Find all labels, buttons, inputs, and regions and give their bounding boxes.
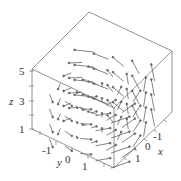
arrow-head-icon <box>134 103 136 105</box>
arrow-head-icon <box>129 131 131 133</box>
y-axis-label: y <box>56 156 62 168</box>
arrow-head-icon <box>150 79 152 81</box>
vector-arrow <box>50 124 53 132</box>
arrow-head-icon <box>87 66 89 68</box>
arrow-head-icon <box>87 111 89 113</box>
z-axis-label: z <box>8 95 14 107</box>
arrow-head-icon <box>109 142 111 144</box>
arrow-head-icon <box>120 116 122 118</box>
arrow-head-icon <box>129 161 131 163</box>
vector-arrow <box>69 77 82 78</box>
arrow-head-icon <box>63 105 65 107</box>
arrow-head-icon <box>150 94 152 96</box>
arrow-head-icon <box>74 64 76 66</box>
arrow-head-icon <box>109 157 111 159</box>
vector-arrow <box>133 106 141 118</box>
arrow-head-icon <box>115 129 117 131</box>
arrow-head-icon <box>115 144 117 146</box>
vector-arrows <box>50 49 155 168</box>
arrow-head-icon <box>126 88 128 90</box>
vector-arrow <box>133 136 141 148</box>
vector-field-plot: 5 3 1 z -1 0 1 y -1 0 1 x <box>0 0 181 181</box>
arrow-head-icon <box>129 116 131 118</box>
arrow-head-icon <box>109 127 111 129</box>
arrow-head-icon <box>134 133 136 135</box>
z-tick-1: 1 <box>19 123 25 135</box>
arrow-head-icon <box>126 103 128 105</box>
vector-arrow <box>122 119 135 128</box>
x-tick-neg1: -1 <box>153 130 162 142</box>
arrow-head-icon <box>140 135 142 137</box>
arrow-head-icon <box>76 137 78 139</box>
arrow-head-icon <box>140 90 142 92</box>
arrow-head-icon <box>74 79 76 81</box>
vector-arrow <box>122 104 135 113</box>
arrow-head-icon <box>107 69 109 71</box>
vector-arrow <box>144 93 146 107</box>
vector-arrow <box>144 108 146 122</box>
arrow-head-icon <box>93 53 95 55</box>
y-tick-1: 1 <box>82 160 88 172</box>
arrow-head-icon <box>63 90 65 92</box>
arrow-head-icon <box>71 120 73 122</box>
arrow-head-icon <box>90 154 92 156</box>
arrow-head-icon <box>134 148 136 150</box>
arrow-head-icon <box>145 122 147 124</box>
x-tick-0: 0 <box>145 140 151 152</box>
arrow-head-icon <box>52 131 54 133</box>
z-tick-3: 3 <box>19 95 25 107</box>
vector-arrow <box>108 85 113 92</box>
arrow-head-icon <box>57 103 59 105</box>
x-tick-1: 1 <box>135 152 141 164</box>
vector-arrow <box>69 92 82 93</box>
arrow-head-icon <box>74 49 76 51</box>
vector-arrow <box>113 57 124 66</box>
vector-arrow <box>133 121 141 133</box>
vector-arrow <box>144 78 146 92</box>
arrow-head-icon <box>52 116 54 118</box>
arrow-head-icon <box>90 109 92 111</box>
arrow-head-icon <box>63 120 65 122</box>
arrow-head-icon <box>57 118 59 120</box>
arrow-head-icon <box>76 122 78 124</box>
vector-arrow <box>127 74 129 84</box>
arrow-head-icon <box>82 94 84 96</box>
arrow-head-icon <box>71 105 73 107</box>
vector-arrow <box>75 50 93 52</box>
arrow-head-icon <box>90 139 92 141</box>
arrow-head-icon <box>120 86 122 88</box>
arrow-head-icon <box>134 118 136 120</box>
vector-arrow <box>96 158 111 161</box>
vector-arrow <box>75 65 93 67</box>
arrow-head-icon <box>87 96 89 98</box>
vector-arrow <box>69 107 82 108</box>
arrow-head-icon <box>145 77 147 79</box>
y-tick-0: 0 <box>65 153 71 165</box>
z-tick-5: 5 <box>19 65 25 77</box>
arrow-head-icon <box>96 141 98 143</box>
arrow-head-icon <box>90 124 92 126</box>
arrow-head-icon <box>145 92 147 94</box>
arrow-head-icon <box>101 97 103 99</box>
arrow-head-icon <box>109 112 111 114</box>
arrow-head-icon <box>129 146 131 148</box>
arrow-head-icon <box>52 101 54 103</box>
vector-arrow <box>113 72 124 81</box>
arrow-head-icon <box>150 109 152 111</box>
arrow-head-icon <box>57 88 59 90</box>
arrow-head-icon <box>101 112 103 114</box>
arrow-head-icon <box>145 107 147 109</box>
arrow-head-icon <box>68 62 70 64</box>
vector-arrow <box>50 109 53 117</box>
x-axis-label: x <box>157 145 163 157</box>
arrow-head-icon <box>140 105 142 107</box>
arrow-head-icon <box>71 135 73 137</box>
vector-arrow <box>122 134 135 143</box>
arrow-head-icon <box>112 86 114 88</box>
arrow-head-icon <box>107 114 109 116</box>
arrow-head-icon <box>112 56 114 58</box>
vector-arrow <box>94 54 109 60</box>
arrow-head-icon <box>112 71 114 73</box>
vector-arrow <box>122 149 135 158</box>
z-axis-ticks <box>29 71 34 129</box>
